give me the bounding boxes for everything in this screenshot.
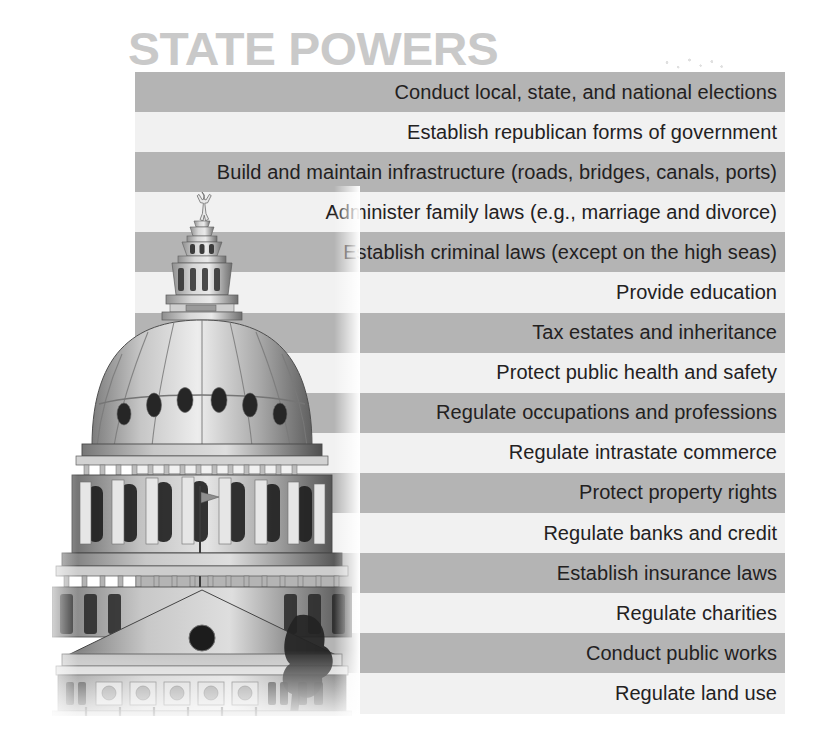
state-power-label: Regulate charities <box>616 602 777 625</box>
state-power-label: Regulate occupations and professions <box>436 401 777 424</box>
state-power-row: Regulate occupations and professions <box>135 393 785 433</box>
state-power-label: Regulate land use <box>615 682 777 705</box>
state-power-label: Establish insurance laws <box>557 562 777 585</box>
state-power-row: Regulate intrastate commerce <box>135 433 785 473</box>
state-power-label: Establish criminal laws (except on the h… <box>343 241 777 264</box>
state-power-row: Build and maintain infrastructure (roads… <box>135 152 785 192</box>
state-power-row: Conduct public works <box>135 633 785 673</box>
state-power-label: Conduct local, state, and national elect… <box>395 81 777 104</box>
state-power-label: Administer family laws (e.g., marriage a… <box>325 201 777 224</box>
state-power-row: Provide education <box>135 272 785 312</box>
state-power-label: Provide education <box>616 281 777 304</box>
state-power-row: Establish insurance laws <box>135 553 785 593</box>
state-power-row: Tax estates and inheritance <box>135 313 785 353</box>
state-power-label: Protect property rights <box>579 481 777 504</box>
state-power-row: Regulate land use <box>135 673 785 713</box>
state-powers-list: Conduct local, state, and national elect… <box>135 72 785 714</box>
state-power-label: Tax estates and inheritance <box>532 321 777 344</box>
scan-speckle-artifact <box>660 56 730 72</box>
state-power-label: Conduct public works <box>586 642 777 665</box>
state-power-row: Regulate charities <box>135 593 785 633</box>
state-power-label: Protect public health and safety <box>496 361 777 384</box>
state-power-label: Establish republican forms of government <box>407 121 777 144</box>
state-power-label: Regulate intrastate commerce <box>509 441 777 464</box>
state-power-row: Establish criminal laws (except on the h… <box>135 232 785 272</box>
state-power-row: Protect property rights <box>135 473 785 513</box>
page-title: STATE POWERS <box>128 24 498 74</box>
state-powers-infographic: STATE POWERS Conduct local, state, and n… <box>0 0 815 742</box>
state-power-row: Administer family laws (e.g., marriage a… <box>135 192 785 232</box>
state-power-row: Conduct local, state, and national elect… <box>135 72 785 112</box>
state-power-row: Regulate banks and credit <box>135 513 785 553</box>
state-power-row: Establish republican forms of government <box>135 112 785 152</box>
state-power-label: Build and maintain infrastructure (roads… <box>217 161 777 184</box>
state-power-label: Regulate banks and credit <box>543 522 777 545</box>
state-power-row: Protect public health and safety <box>135 353 785 393</box>
